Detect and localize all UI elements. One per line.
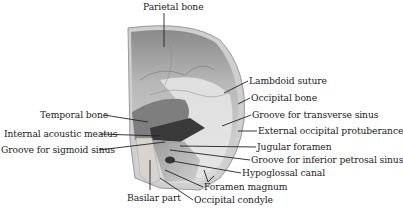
- label-jugular-foramen: Jugular foramen: [257, 142, 332, 152]
- hypoglossal-hole: [165, 157, 175, 164]
- label-groove-inferior-petrosal-sinus: Groove for inferior petrosal sinus: [251, 155, 403, 165]
- label-hypoglossal-canal: Hypoglossal canal: [242, 168, 325, 178]
- label-foramen-magnum: Foramen magnum: [204, 182, 287, 192]
- label-lambdoid-suture: Lambdoid suture: [249, 76, 327, 86]
- label-groove-sigmoid-sinus: Groove for sigmoid sinus: [1, 145, 115, 155]
- label-basilar-part: Basilar part: [127, 193, 181, 203]
- label-external-occipital-protuberance: External occipital protuberance: [258, 126, 403, 136]
- label-parietal-bone: Parietal bone: [143, 2, 204, 12]
- label-groove-transverse-sinus: Groove for transverse sinus: [252, 110, 378, 120]
- label-occipital-bone: Occipital bone: [251, 93, 317, 103]
- label-temporal-bone: Temporal bone: [40, 110, 108, 120]
- label-occipital-condyle: Occipital condyle: [194, 195, 273, 205]
- label-internal-acoustic-meatus: Internal acoustic meatus: [4, 129, 117, 139]
